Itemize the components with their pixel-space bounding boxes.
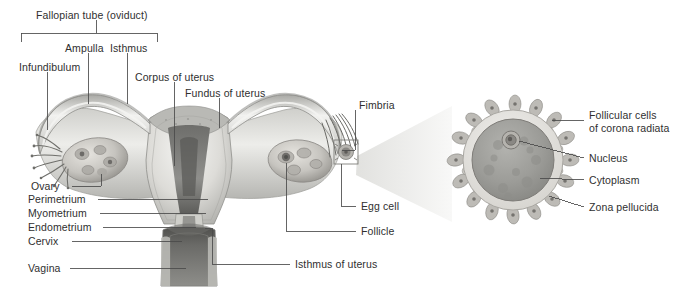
label-isthmus-of-uterus: Isthmus of uterus (295, 258, 377, 271)
right-fallopian-tube (227, 94, 340, 154)
label-nucleus: Nucleus (589, 152, 628, 165)
label-infundibulum: Infundibulum (19, 61, 80, 74)
corona-radiata-cells (328, 0, 579, 225)
nucleus-leader (519, 141, 584, 158)
left-fallopian-tube (37, 93, 151, 154)
label-ovary: Ovary (31, 180, 60, 193)
magnified-ovum (328, 0, 579, 225)
egg-cell-leader (341, 164, 356, 206)
cytoplasm-leader (540, 178, 584, 180)
label-endometrium: Endometrium (28, 221, 92, 234)
right-ovary (266, 137, 334, 185)
right-fimbriae (322, 114, 358, 157)
left-ovary (59, 134, 130, 187)
label-cervix: Cervix (28, 235, 58, 248)
label-egg-cell: Egg cell (361, 200, 399, 213)
egg-cell-callout-box (334, 140, 358, 164)
fimbria-leader (342, 110, 355, 150)
label-perimetrium: Perimetrium (28, 193, 86, 206)
label-fundus-of-uterus: Fundus of uterus (185, 87, 265, 100)
ovum-nucleus (502, 131, 520, 149)
fallopian-tube-bracket (21, 20, 157, 42)
label-isthmus: Isthmus (110, 42, 147, 55)
follicle-leader (286, 163, 356, 231)
zona-pellucida-leader (549, 196, 584, 207)
leader-lines (21, 20, 584, 268)
label-vagina: Vagina (28, 262, 61, 275)
label-zona-pellucida: Zona pellucida (589, 201, 659, 214)
ovary-leader (72, 174, 101, 186)
label-follicular-cells-corona-radiata: Follicular cells of corona radiata (589, 109, 670, 134)
label-fallopian-tube: Fallopian tube (oviduct) (36, 9, 148, 22)
label-myometrium: Myometrium (28, 207, 87, 220)
label-follicle: Follicle (361, 225, 394, 238)
label-ampulla: Ampulla (65, 42, 104, 55)
label-fimbria: Fimbria (359, 99, 395, 112)
label-corpus-of-uterus: Corpus of uterus (135, 71, 214, 84)
diagram-canvas: Fallopian tube (oviduct) Ampulla Isthmus… (0, 0, 676, 290)
isthmus-of-uterus-leader (205, 228, 290, 264)
label-cytoplasm: Cytoplasm (589, 174, 640, 187)
